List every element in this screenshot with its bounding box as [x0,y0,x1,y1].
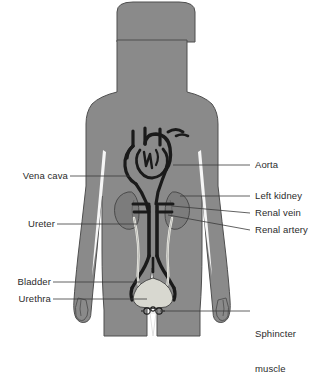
label-renal-vein: Renal vein [255,207,301,219]
label-left-kidney: Left kidney [255,190,302,202]
label-aorta: Aorta [255,159,278,171]
label-sphincter-muscle: Sphincter muscle [255,305,296,376]
label-urethra: Urethra [19,293,51,305]
label-bladder: Bladder [18,276,51,288]
label-vena-cava: Vena cava [23,170,68,182]
label-sphincter-muscle-line2: muscle [255,363,296,375]
label-ureter: Ureter [28,218,55,230]
label-sphincter-muscle-line1: Sphincter [255,328,296,340]
label-renal-artery: Renal artery [255,224,308,236]
left-kidney [165,192,190,230]
